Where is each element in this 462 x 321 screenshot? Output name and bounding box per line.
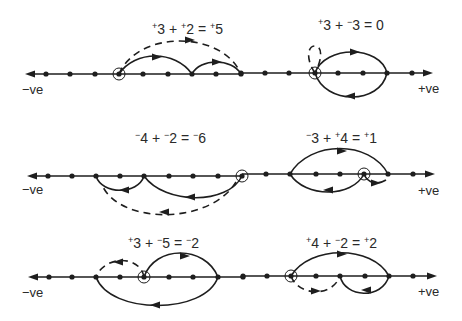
integer-point: [313, 171, 318, 176]
integer-point: [166, 274, 171, 279]
direction-arrow-icon: [212, 59, 222, 66]
arrow-right-icon: [427, 273, 437, 280]
example-p3-plus-p2: +3 + +2 = +5−ve: [22, 21, 244, 97]
integer-point: [166, 173, 171, 178]
integer-point: [165, 71, 170, 76]
integer-point: [117, 173, 122, 178]
integer-point: [335, 70, 340, 75]
jump-arc: [315, 73, 387, 97]
negative-direction-label: −ve: [22, 182, 43, 197]
equation-label: −4 + −2 = −6: [135, 130, 206, 146]
arrow-left-icon: [27, 173, 37, 180]
direction-arrow-icon: [350, 49, 360, 56]
positive-direction-label: +ve: [418, 81, 439, 96]
negative-direction-label: −ve: [22, 285, 43, 300]
jump-arc: [315, 52, 387, 73]
diagram-canvas: +3 + +2 = +5−ve+3 + −3 = 0+ve−4 + −2 = −…: [0, 0, 462, 321]
integer-point: [410, 171, 415, 176]
example-p4-plus-m2: +4 + −2 = +2+ve: [240, 235, 439, 299]
result-jump-dashed: [119, 41, 241, 74]
integer-point: [140, 71, 145, 76]
example-p3-plus-m3: +3 + −3 = 0+ve: [238, 17, 439, 100]
integer-point: [409, 70, 414, 75]
direction-arrow-icon: [311, 288, 321, 295]
direction-arrow-icon: [113, 259, 123, 266]
integer-point: [190, 173, 195, 178]
integer-point: [92, 71, 97, 76]
example-m3-plus-p4: −3 + +4 = +1+ve: [242, 130, 439, 198]
integer-point: [117, 274, 122, 279]
integer-point: [69, 173, 74, 178]
jump-arc: [96, 277, 218, 306]
integer-point: [67, 71, 72, 76]
arrow-right-icon: [425, 171, 435, 178]
direction-arrow-icon: [345, 93, 355, 100]
integer-point: [43, 71, 48, 76]
integer-point: [286, 70, 291, 75]
arrow-right-icon: [423, 70, 433, 77]
direction-arrow-icon: [150, 302, 160, 309]
integer-point: [190, 274, 195, 279]
integer-point: [262, 70, 267, 75]
equation-label: +3 + +2 = +5: [152, 21, 223, 37]
direction-arrow-icon: [152, 54, 162, 61]
arrow-left-icon: [28, 274, 38, 281]
integer-point: [213, 71, 218, 76]
equation-label: −3 + +4 = +1: [306, 130, 377, 146]
integer-point: [240, 273, 245, 278]
integer-point: [337, 171, 342, 176]
example-m4-plus-m2: −4 + −2 = −6−ve: [22, 130, 248, 216]
integer-point: [360, 70, 365, 75]
arrow-left-icon: [25, 71, 35, 78]
integer-point: [238, 70, 243, 75]
direction-arrow-icon: [371, 180, 381, 187]
integer-point: [264, 273, 269, 278]
direction-arrow-icon: [185, 194, 195, 201]
integer-point: [45, 173, 50, 178]
direction-arrow-icon: [337, 251, 347, 258]
positive-direction-label: +ve: [418, 183, 439, 198]
equation-label: +3 + −5 = −2: [128, 235, 199, 251]
negative-direction-label: −ve: [22, 82, 43, 97]
integer-point: [46, 274, 51, 279]
integer-point: [362, 273, 367, 278]
equation-label: +3 + −3 = 0: [318, 17, 384, 33]
equation-label: +4 + −2 = +2: [306, 235, 377, 251]
integer-point: [263, 171, 268, 176]
positive-direction-label: +ve: [418, 284, 439, 299]
integer-point: [215, 173, 220, 178]
integer-point: [69, 274, 74, 279]
example-p3-plus-m5: +3 + −5 = −2−ve: [22, 235, 246, 309]
integer-point: [313, 273, 318, 278]
integer-point: [410, 273, 415, 278]
direction-arrow-icon: [119, 187, 129, 194]
number-line-diagram: +3 + +2 = +5−ve+3 + −3 = 0+ve−4 + −2 = −…: [0, 0, 462, 321]
